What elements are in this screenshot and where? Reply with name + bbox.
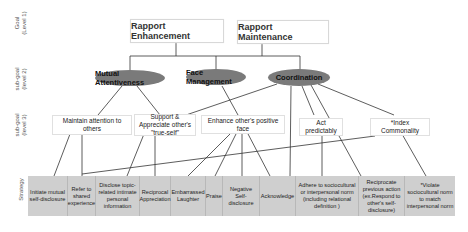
strategy-embarrassed-laughter: Embarrassed Laughter [171,176,206,216]
level-label-goal: Goal (Level 1) [14,3,28,43]
subgoal-coordination: Coordination [268,69,330,86]
subgoal-mutual-attentiveness: Mutual Attentiveness [95,70,165,86]
strategy-negative-self-disclosure: Negative Self-disclosure [223,176,260,216]
subgoal-enhance-positive-face: Enhance other's positive face [201,115,285,134]
level-label-subgoal-3: sub-goal (level 3) [14,105,28,145]
subgoal-act-predictably: Act predictably [299,118,343,136]
strategy-acknowledge: Acknowledge [260,176,296,216]
strategy-praise: Praise [206,176,223,216]
strategy-reciprocate-previous-action: Reciprocate previous action (ex.Respond … [359,176,405,216]
strategy-reciprocal-appreciation: Reciprocal Appreciation [140,176,171,216]
subgoal-face-management: Face Management [186,69,246,85]
subgoal-maintain-attention: Maintain attention to others [52,115,132,135]
level-label-strategy: Strategy [18,170,25,210]
strategy-violate-norm: *Violate sociocultural norm to match int… [405,176,455,216]
strategy-initiate-self-disclosure: Initiate mutual self-disclosure [28,176,68,216]
subgoal-support-appreciate: Support & Appreciate other's "true-self" [134,114,196,136]
subgoal-index-commonality: *Index Commonality [370,118,430,136]
strategy-disclose-personal-info: Disclose topic-related intimate personal… [96,176,140,216]
strategy-refer-shared-experience: Refer to shared experience [68,176,96,216]
level-label-subgoal-2: sub-goal (level 2) [14,59,28,99]
goal-rapport-enhancement: Rapport Enhancement [130,19,224,43]
goal-rapport-maintenance: Rapport Maintenance [237,20,329,44]
strategy-adhere-norm: Adhere to sociocultural or interpersonal… [296,176,359,216]
